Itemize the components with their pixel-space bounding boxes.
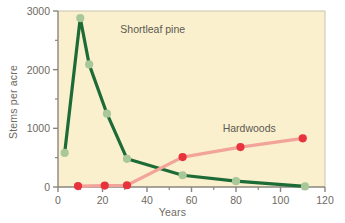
y-tick-label: 0 [44,181,50,193]
data-point-hardwoods [123,181,131,189]
data-point-shortleaf-pine [61,149,69,157]
data-point-shortleaf-pine [76,14,84,22]
x-tick-label: 100 [272,194,290,206]
series-label-shortleaf-pine: Shortleaf pine [120,23,185,35]
data-point-shortleaf-pine [123,155,131,163]
x-tick-label: 0 [55,194,61,206]
data-point-hardwoods [299,134,307,142]
data-point-hardwoods [101,181,109,189]
chart-figure: 0100020003000020406080100120Shortleaf pi… [0,0,345,223]
y-tick-label: 3000 [27,5,51,17]
data-point-shortleaf-pine [301,182,309,190]
data-point-hardwoods [179,153,187,161]
data-point-shortleaf-pine [103,110,111,118]
series-label-hardwoods: Hardwoods [223,122,276,134]
y-axis-title: Stems per acre [7,62,19,142]
x-tick-label: 40 [141,194,153,206]
data-point-hardwoods [74,182,82,190]
data-point-shortleaf-pine [232,177,240,185]
plot-background [58,11,325,187]
x-tick-label: 60 [186,194,198,206]
x-tick-label: 20 [97,194,109,206]
x-tick-label: 80 [230,194,242,206]
x-tick-label: 120 [316,194,334,206]
y-tick-label: 2000 [27,64,51,76]
data-point-shortleaf-pine [85,60,93,68]
data-point-hardwoods [236,143,244,151]
line-chart-canvas: 0100020003000020406080100120Shortleaf pi… [0,0,345,223]
y-tick-label: 1000 [27,122,51,134]
x-axis-title: Years [0,206,345,218]
data-point-shortleaf-pine [179,171,187,179]
